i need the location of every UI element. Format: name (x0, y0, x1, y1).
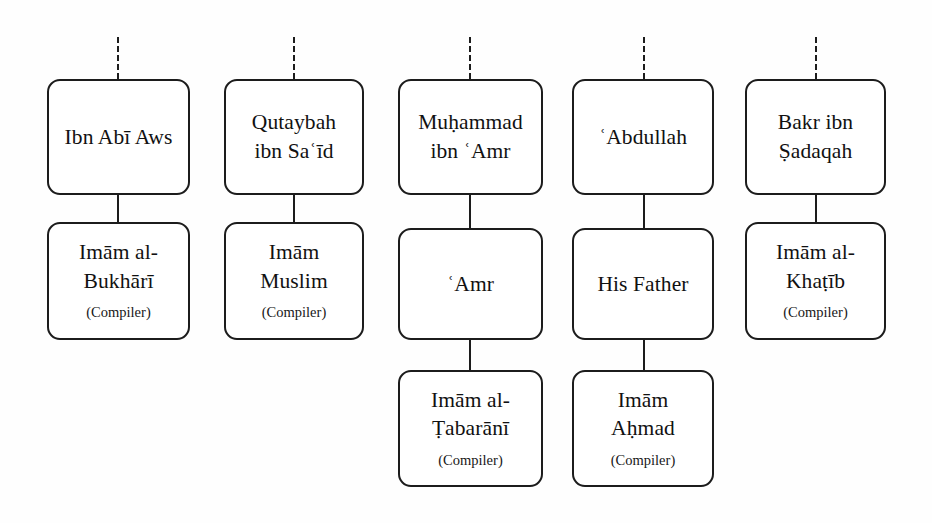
connector-chain-2-0-1 (293, 195, 295, 222)
node-role-label: (Compiler) (438, 452, 502, 469)
connector-chain-5-0-1 (815, 195, 817, 222)
node-chain-5-1[interactable]: Imām al- Khaṭīb (Compiler) (745, 222, 886, 340)
connector-chain-4-0-1 (643, 195, 645, 228)
node-chain-1-0[interactable]: Ibn Abī Aws (47, 79, 190, 195)
node-chain-4-0[interactable]: ʿAbdullah (572, 79, 714, 195)
node-chain-4-1[interactable]: His Father (572, 228, 714, 340)
dashed-riser-chain-2 (293, 37, 295, 79)
node-label: Bakr ibn Ṣadaqah (772, 108, 859, 165)
node-chain-2-1[interactable]: Imām Muslim (Compiler) (224, 222, 364, 340)
isnad-chain-diagram: Ibn Abī Aws Imām al- Bukhārī (Compiler) … (0, 0, 932, 523)
node-role-label: (Compiler) (262, 304, 326, 321)
node-label: Imām Aḥmad (605, 386, 681, 443)
dashed-riser-chain-5 (815, 37, 817, 79)
node-label: Imām Muslim (254, 238, 334, 295)
node-label: ʿAmr (441, 270, 500, 299)
connector-chain-3-1-2 (469, 340, 471, 370)
node-chain-3-0[interactable]: Muḥammad ibn ʿAmr (398, 79, 543, 195)
node-role-label: (Compiler) (86, 304, 150, 321)
node-label: Qutaybah ibn Saʿīd (246, 108, 342, 165)
connector-chain-4-1-2 (643, 340, 645, 370)
node-label: Ibn Abī Aws (59, 123, 179, 152)
node-chain-1-1[interactable]: Imām al- Bukhārī (Compiler) (47, 222, 190, 340)
dashed-riser-chain-3 (469, 37, 471, 79)
node-label: ʿAbdullah (593, 123, 693, 152)
node-chain-3-1[interactable]: ʿAmr (398, 228, 543, 340)
node-chain-2-0[interactable]: Qutaybah ibn Saʿīd (224, 79, 364, 195)
node-label: Muḥammad ibn ʿAmr (412, 108, 529, 165)
node-chain-3-2[interactable]: Imām al- Ṭabarānī (Compiler) (398, 370, 543, 487)
connector-chain-1-0-1 (117, 195, 119, 222)
dashed-riser-chain-1 (117, 37, 119, 79)
node-label: His Father (591, 270, 694, 299)
node-chain-5-0[interactable]: Bakr ibn Ṣadaqah (745, 79, 886, 195)
node-label: Imām al- Bukhārī (73, 238, 164, 295)
node-chain-4-2[interactable]: Imām Aḥmad (Compiler) (572, 370, 714, 487)
connector-chain-3-0-1 (469, 195, 471, 228)
node-role-label: (Compiler) (611, 452, 675, 469)
node-label: Imām al- Ṭabarānī (425, 386, 516, 443)
node-label: Imām al- Khaṭīb (770, 238, 861, 295)
node-role-label: (Compiler) (783, 304, 847, 321)
dashed-riser-chain-4 (643, 37, 645, 79)
